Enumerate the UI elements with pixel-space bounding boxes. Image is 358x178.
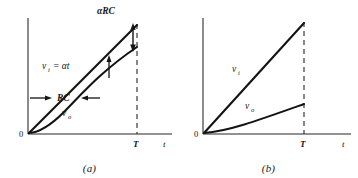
vo-label: v xyxy=(245,101,250,111)
x-tick-label-T: T xyxy=(133,139,139,149)
vi-label-group: v i = αt xyxy=(42,61,70,73)
vi-label-group: v i xyxy=(232,64,240,76)
panel-a-caption: (a) xyxy=(0,162,179,174)
rc-label: RC xyxy=(56,93,70,103)
vo-label-sub: o xyxy=(251,106,255,113)
x-axis-label: t xyxy=(342,139,345,149)
x-axis-label: t xyxy=(163,139,166,149)
panel-b-caption: (b) xyxy=(179,162,358,174)
alpha-rc-label: αRC xyxy=(97,6,116,16)
vi-label-sub: i xyxy=(48,66,50,73)
vi-label-equation: = αt xyxy=(53,61,70,71)
vi-label-sub: i xyxy=(238,69,240,76)
origin-label: 0 xyxy=(19,129,23,139)
panel-a: αRC v i = αt RC v xyxy=(0,0,179,178)
vo-label-sub: o xyxy=(68,113,72,120)
vi-label: v xyxy=(42,61,47,71)
rc-annotation: RC xyxy=(30,93,100,103)
origin-label: 0 xyxy=(194,129,198,139)
x-tick-label-T: T xyxy=(300,139,306,149)
curve-vi xyxy=(204,23,304,133)
panel-a-plot: αRC v i = αt RC v xyxy=(0,0,179,178)
panel-b-plot: v i v o 0 T t xyxy=(179,0,358,178)
panel-b: v i v o 0 T t (b) xyxy=(179,0,358,178)
vo-label-group: v o xyxy=(245,101,255,113)
vi-label: v xyxy=(232,64,237,74)
curve-vo xyxy=(29,47,137,133)
curve-vi xyxy=(29,25,137,133)
figure-container: αRC v i = αt RC v xyxy=(0,0,358,178)
